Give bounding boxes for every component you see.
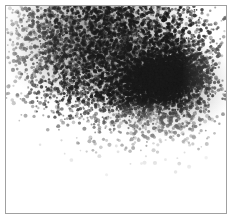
hotspot-core-layer xyxy=(6,6,226,213)
dot-density-field xyxy=(6,6,226,213)
hotspot-halo-layer xyxy=(6,6,226,213)
scan-plate-border xyxy=(5,5,227,214)
speckle-dot-layer xyxy=(6,6,226,213)
scan-image-root xyxy=(0,0,235,223)
lower-region-fade xyxy=(6,6,226,213)
diffuse-cloud-layer xyxy=(6,6,226,213)
side-margin-fade xyxy=(6,6,226,213)
